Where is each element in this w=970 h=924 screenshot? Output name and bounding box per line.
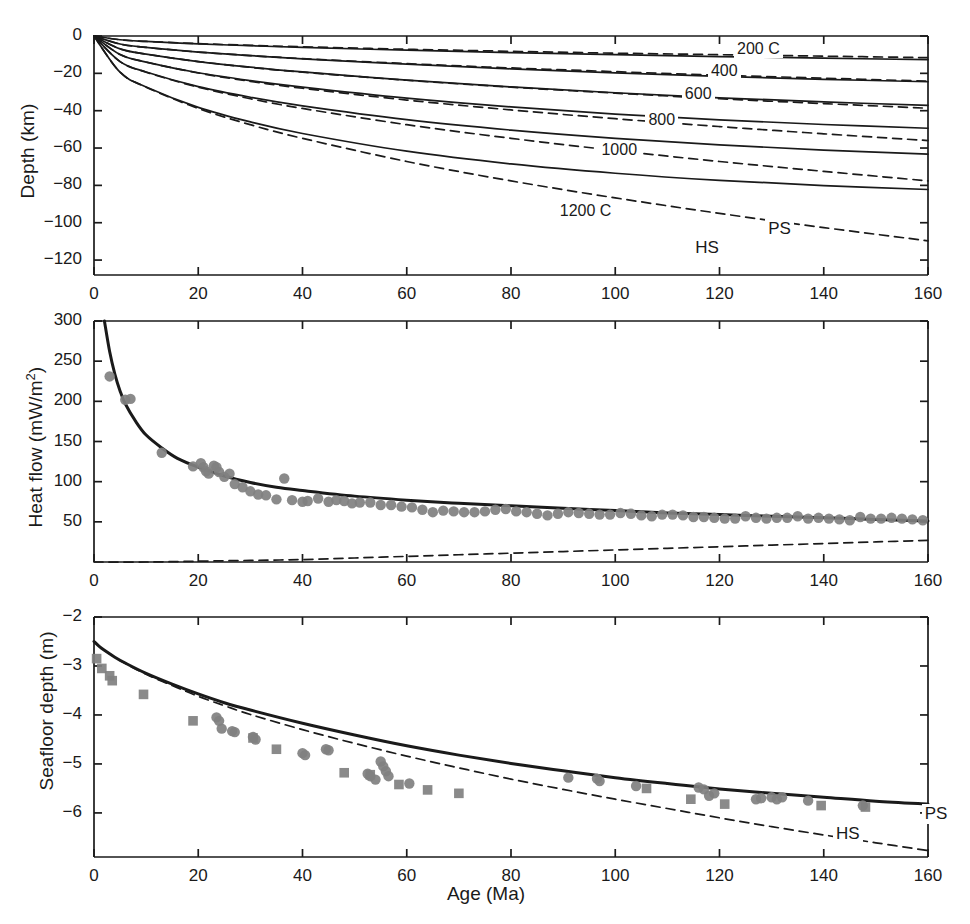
model-label-ps: PS bbox=[765, 219, 794, 239]
y-tick-label: −3 bbox=[63, 655, 82, 675]
isotherm-label: 1000 bbox=[598, 141, 640, 159]
y-tick-label: 200 bbox=[54, 390, 82, 410]
y-tick-label: −120 bbox=[44, 249, 82, 269]
x-tick-label: 20 bbox=[168, 866, 228, 886]
y-tick-label: 300 bbox=[54, 310, 82, 330]
x-tick-label: 0 bbox=[64, 571, 124, 591]
y-tick-label: −2 bbox=[63, 606, 82, 626]
axis-frame bbox=[94, 36, 928, 275]
data-markers bbox=[92, 654, 870, 812]
plot-area-heat-flow bbox=[0, 300, 970, 600]
panel-heat-flow: Heat flow (mW/m2) 5010015020025030002040… bbox=[0, 300, 970, 600]
isotherm-label: 1200 C bbox=[557, 202, 615, 220]
y-tick-label: −60 bbox=[53, 137, 82, 157]
y-tick-label: 100 bbox=[54, 471, 82, 491]
isotherm-label: 800 bbox=[645, 111, 678, 129]
x-tick-label: 0 bbox=[64, 866, 124, 886]
x-tick-label: 100 bbox=[585, 571, 645, 591]
x-tick-label: 80 bbox=[481, 571, 541, 591]
isotherm-label: 200 C bbox=[734, 40, 783, 58]
series-line bbox=[94, 641, 928, 850]
y-axis-label-depth: Depth (km) bbox=[17, 71, 39, 231]
axis-frame bbox=[94, 321, 928, 562]
y-tick-label: −100 bbox=[44, 212, 82, 232]
panel-depth-isotherms: Depth (km) 0−20−40−60−80−100−12002040608… bbox=[0, 0, 970, 300]
y-tick-label: 150 bbox=[54, 431, 82, 451]
x-tick-label: 60 bbox=[377, 866, 437, 886]
x-tick-label: 40 bbox=[273, 571, 333, 591]
data-markers bbox=[104, 371, 928, 525]
x-tick-label: 140 bbox=[794, 571, 854, 591]
axis-ticks bbox=[94, 617, 928, 857]
y-tick-label: 0 bbox=[73, 25, 82, 45]
model-label-ps: PS bbox=[922, 804, 951, 824]
x-tick-label: 100 bbox=[585, 866, 645, 886]
series-line bbox=[94, 36, 928, 141]
x-tick-label: 60 bbox=[377, 571, 437, 591]
x-tick-label: 160 bbox=[898, 571, 958, 591]
y-tick-label: −40 bbox=[53, 100, 82, 120]
y-tick-label: 50 bbox=[63, 511, 82, 531]
axis-ticks bbox=[94, 36, 928, 275]
isotherm-label: 400 bbox=[708, 62, 741, 80]
x-tick-label: 40 bbox=[273, 866, 333, 886]
x-tick-label: 120 bbox=[690, 571, 750, 591]
x-tick-label: 80 bbox=[481, 866, 541, 886]
y-axis-label-heat-flow: Heat flow (mW/m2) bbox=[23, 332, 47, 562]
y-tick-label: −4 bbox=[63, 704, 82, 724]
x-tick-label: 120 bbox=[690, 866, 750, 886]
axis-frame bbox=[94, 617, 928, 857]
y-tick-label: −6 bbox=[63, 802, 82, 822]
figure-plate-cooling-models: Depth (km) 0−20−40−60−80−100−12002040608… bbox=[0, 0, 970, 924]
x-axis-label-age: Age (Ma) bbox=[411, 883, 561, 905]
axis-ticks bbox=[94, 321, 928, 562]
x-tick-label: 140 bbox=[794, 866, 854, 886]
data-markers bbox=[211, 712, 868, 811]
y-tick-label: 250 bbox=[54, 350, 82, 370]
y-tick-label: −5 bbox=[63, 753, 82, 773]
isotherm-label: 600 bbox=[682, 85, 715, 103]
series-line bbox=[94, 36, 928, 105]
panel-seafloor-depth: Seafloor depth (m) Age (Ma) −2−3−4−5−602… bbox=[0, 595, 970, 924]
series-line bbox=[94, 36, 928, 189]
model-label-hs: HS bbox=[833, 824, 863, 844]
x-tick-label: 20 bbox=[168, 571, 228, 591]
series-line bbox=[104, 321, 928, 521]
y-tick-label: −80 bbox=[53, 174, 82, 194]
x-tick-label: 160 bbox=[898, 866, 958, 886]
plot-area-depth bbox=[0, 0, 970, 300]
y-axis-label-seafloor-depth: Seafloor depth (m) bbox=[36, 591, 58, 831]
y-tick-label: −20 bbox=[53, 62, 82, 82]
series-line bbox=[94, 36, 928, 108]
model-label-hs: HS bbox=[692, 238, 722, 258]
